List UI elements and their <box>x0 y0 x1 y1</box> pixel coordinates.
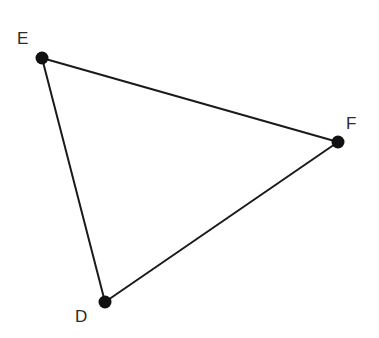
vertex-d-point <box>99 296 112 309</box>
vertex-f-label: F <box>346 114 356 133</box>
edge-ef <box>42 58 338 142</box>
edge-fd <box>105 142 338 302</box>
vertex-e-label: E <box>17 29 28 48</box>
vertex-f-point <box>332 136 345 149</box>
vertex-e-point <box>36 52 49 65</box>
edge-de <box>42 58 105 302</box>
vertex-d-label: D <box>75 307 87 326</box>
triangle-diagram: E F D <box>0 0 379 338</box>
